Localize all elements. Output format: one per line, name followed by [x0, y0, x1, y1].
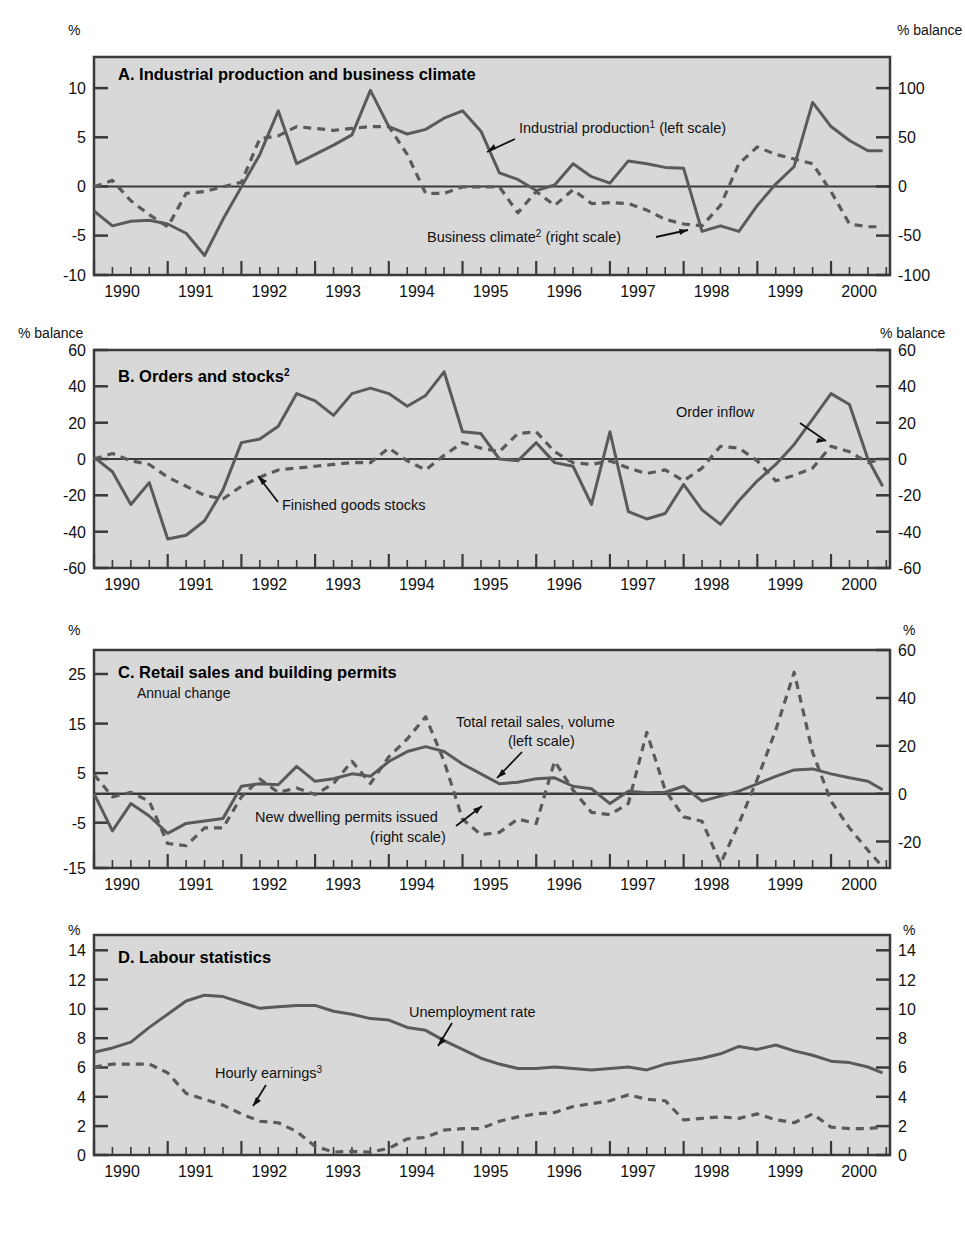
year-label: 1998: [694, 1163, 730, 1180]
panel-b-right-tick-4: -20: [898, 487, 921, 504]
panel-c-right-tick-0: 60: [898, 642, 916, 659]
panel-a-right-unit: % balance: [897, 22, 963, 38]
year-label: 1997: [620, 876, 656, 893]
panel-d-right-tick-1: 12: [898, 972, 916, 989]
panel-b: % balance % balance 60 40 20 0 -20 -40 -…: [0, 310, 965, 610]
year-label: 1996: [546, 283, 582, 300]
panel-d-year-labels: 1990199119921993199419951996199719981999…: [104, 1163, 877, 1180]
panel-d-left-tick-7: 0: [77, 1147, 86, 1164]
panel-a-left-unit: %: [68, 22, 80, 38]
year-label: 1993: [325, 283, 361, 300]
panel-c-subtitle: Annual change: [137, 685, 231, 701]
year-label: 1999: [768, 576, 804, 593]
year-label: 1996: [546, 576, 582, 593]
panel-d-right-tick-0: 14: [898, 942, 916, 959]
panel-c-svg: % % 25 15 5 -5 -15 60 40 20 0 -20 199019…: [0, 610, 965, 910]
panel-a-svg: % % balance 10 5 0 -5 -10 100 50 0 -50: [0, 0, 965, 310]
panel-b-right-tick-3: 0: [898, 451, 907, 468]
year-label: 1990: [104, 876, 140, 893]
year-label: 1990: [104, 1163, 140, 1180]
panel-d-right-unit: %: [903, 922, 915, 938]
panel-d-left-tick-0: 14: [68, 942, 86, 959]
year-label: 1999: [768, 1163, 804, 1180]
year-label: 1998: [694, 576, 730, 593]
panel-d-right-tick-3: 8: [898, 1030, 907, 1047]
year-label: 1991: [178, 576, 214, 593]
panel-b-svg: % balance % balance 60 40 20 0 -20 -40 -…: [0, 310, 965, 610]
panel-d-left-unit: %: [68, 922, 80, 938]
year-label: 1993: [325, 1163, 361, 1180]
panel-d-left-tick-6: 2: [77, 1118, 86, 1135]
label-text-bc: Business climate: [427, 229, 536, 245]
panel-d-right-tick-4: 6: [898, 1059, 907, 1076]
panel-b-right-tick-2: 20: [898, 415, 916, 432]
panel-b-right-tick-6: -60: [898, 560, 921, 577]
year-label: 1997: [620, 283, 656, 300]
panel-c-right-unit: %: [903, 622, 915, 638]
panel-c-year-labels: 1990199119921993199419951996199719981999…: [104, 876, 877, 893]
panel-c-right-tick-1: 40: [898, 690, 916, 707]
year-label: 1990: [104, 283, 140, 300]
panel-a-right-tick-2: 0: [898, 178, 907, 195]
panel-d-right-tick-5: 4: [898, 1089, 907, 1106]
panel-a-left-tick-2: 0: [77, 178, 86, 195]
year-label: 2000: [841, 576, 877, 593]
panel-a-title: A. Industrial production and business cl…: [118, 65, 476, 83]
year-label: 1994: [399, 1163, 435, 1180]
year-label: 1993: [325, 876, 361, 893]
panel-c-plot-area: [94, 650, 890, 868]
year-label: 2000: [841, 283, 877, 300]
panel-c-left-tick-2: 5: [77, 765, 86, 782]
panel-a-right-tick-0: 100: [898, 80, 925, 97]
panel-b-title-text: B. Orders and stocks: [118, 367, 284, 385]
panel-d-right-tick-2: 10: [898, 1001, 916, 1018]
panel-c-right-tick-4: -20: [898, 834, 921, 851]
year-label: 1992: [252, 876, 288, 893]
year-label: 1998: [694, 876, 730, 893]
panel-c-left-tick-3: -5: [72, 815, 86, 832]
panel-a-left-tick-4: -10: [63, 267, 86, 284]
year-label: 1999: [768, 876, 804, 893]
year-label: 1995: [473, 283, 509, 300]
panel-a-right-tick-4: -100: [898, 267, 930, 284]
svg-text:Business climate2 (right scale: Business climate2 (right scale): [427, 228, 621, 245]
panel-c-right-tick-3: 0: [898, 786, 907, 803]
panel-b-left-tick-2: 20: [68, 415, 86, 432]
panel-b-right-tick-0: 60: [898, 342, 916, 359]
year-label: 1994: [399, 876, 435, 893]
year-label: 1994: [399, 283, 435, 300]
panel-c: % % 25 15 5 -5 -15 60 40 20 0 -20 199019…: [0, 610, 965, 910]
year-label: 1993: [325, 576, 361, 593]
year-label: 1999: [768, 283, 804, 300]
year-label: 1997: [620, 1163, 656, 1180]
panel-a-left-tick-0: 10: [68, 80, 86, 97]
panel-b-left-tick-0: 60: [68, 342, 86, 359]
panel-d-left-tick-5: 4: [77, 1089, 86, 1106]
panel-d-left-tick-4: 6: [77, 1059, 86, 1076]
label-text-oi: Order inflow: [676, 404, 755, 420]
panel-a-year-labels: 1990199119921993199419951996199719981999…: [104, 283, 877, 300]
year-label: 1992: [252, 1163, 288, 1180]
panel-b-right-tick-1: 40: [898, 378, 916, 395]
year-label: 1994: [399, 576, 435, 593]
year-label: 1997: [620, 576, 656, 593]
panel-b-title: B. Orders and stocks2: [118, 367, 290, 385]
panel-b-right-tick-5: -40: [898, 524, 921, 541]
panel-b-year-labels: 1990199119921993199419951996199719981999…: [104, 576, 877, 593]
year-label: 2000: [841, 1163, 877, 1180]
panel-d-left-tick-1: 12: [68, 972, 86, 989]
panel-b-left-tick-4: -20: [63, 487, 86, 504]
year-label: 1990: [104, 576, 140, 593]
panel-a: % % balance 10 5 0 -5 -10 100 50 0 -50: [0, 0, 965, 310]
panel-a-left-tick-3: -5: [72, 227, 86, 244]
panel-b-right-unit: % balance: [880, 325, 946, 341]
year-label: 1991: [178, 1163, 214, 1180]
panel-b-title-sup: 2: [284, 367, 290, 378]
year-label: 1995: [473, 576, 509, 593]
panel-d-svg: % % 14 12 10 8 6 4 2 0: [0, 910, 965, 1236]
panel-a-left-tick-1: 5: [77, 129, 86, 146]
he-text: Hourly earnings: [215, 1065, 317, 1081]
label-text-ur: Unemployment rate: [409, 1004, 536, 1020]
label-text-ip: Industrial production: [519, 120, 650, 136]
label-text-fgs: Finished goods stocks: [282, 497, 425, 513]
